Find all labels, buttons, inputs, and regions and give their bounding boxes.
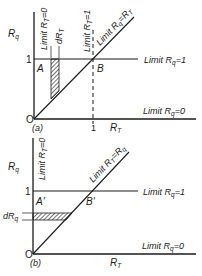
x-tick-1-a: 1 [91,123,96,133]
y-tick-1-b: 1 [25,186,31,197]
drt-label: dRT [54,27,65,44]
x-axis-label-b: RT [110,257,122,269]
limit-rt-1-label-a: Limit RT=1 [82,10,93,52]
panel-b: Rq 1 A' B' dRq O (b) RT Limit RT=0 Limit… [3,138,196,269]
x-axis-label-a: RT [110,122,122,134]
drq-label: dRq [3,211,19,223]
panel-tag-b: (b) [30,258,41,268]
hatched-strip-drq [33,213,72,220]
y-tick-1-a: 1 [26,54,32,65]
y-axis-label-b: Rq [8,161,19,174]
point-b-label: B [97,63,104,74]
limit-rq-1-label-a: Limit Rq=1 [144,55,186,67]
point-b-prime-label: B' [86,196,96,207]
panel-tag-a: (a) [32,123,43,133]
limit-rq-1-label-b: Limit Rq=1 [143,187,185,199]
point-a-label: A [36,63,44,74]
panel-a: Rq 1 A B O (a) 1 RT Limit RT=0 dRT Limit… [8,5,196,134]
limit-rq-0-label-b: Limit Rq=0 [142,241,184,253]
point-a-prime-label: A' [35,196,46,207]
limit-rq-0-label-a: Limit Rq=0 [143,106,185,118]
limit-diagonal-label-b: Limit RT=Rq [87,143,128,186]
limit-diagram: Rq 1 A B O (a) 1 RT Limit RT=0 dRT Limit… [0,0,202,276]
limit-rt-0-label-a: Limit RT=0 [39,8,50,50]
limit-diagonal-label-a: Limit Rq=RT [94,5,136,49]
limit-rt-0-label-b: Limit RT=0 [37,138,48,180]
hatched-strip-drt [51,59,59,99]
y-axis-label-a: Rq [8,28,19,41]
diagonal-rt-eq-rq-b [33,152,129,254]
